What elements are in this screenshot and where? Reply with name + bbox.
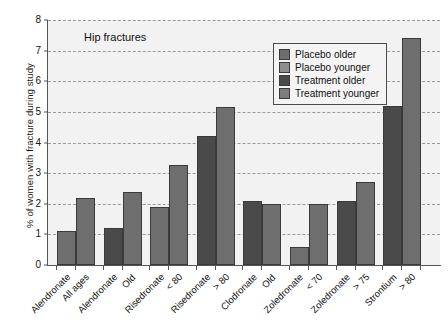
x-tick-mark: [242, 265, 243, 270]
x-label-group: < 80: [164, 272, 184, 292]
bar: [337, 201, 356, 265]
legend: Placebo olderPlacebo youngerTreatment ol…: [273, 43, 387, 105]
plot-area: 012345678 Hip fractures Placebo olderPla…: [47, 20, 440, 265]
bar: [383, 106, 402, 265]
bar: [216, 107, 235, 265]
bar: [262, 204, 281, 265]
x-tick-mark: [215, 265, 216, 270]
legend-item: Placebo older: [279, 48, 379, 61]
y-axis-title: % of women with fracture during study: [24, 21, 35, 271]
legend-item: Treatment younger: [279, 87, 379, 100]
x-label-group: > 75: [351, 272, 371, 292]
hip-fractures-bar-chart: % of women with fracture during study 01…: [0, 0, 448, 334]
legend-label: Placebo younger: [295, 63, 370, 73]
x-tick-mark: [261, 265, 262, 270]
legend-label: Treatment older: [295, 76, 365, 86]
bar: [123, 192, 142, 266]
x-tick-mark: [56, 265, 57, 270]
bar: [356, 182, 375, 265]
x-tick-mark: [355, 265, 356, 270]
x-label-group: > 80: [211, 272, 231, 292]
legend-swatch: [279, 75, 290, 86]
x-tick-mark: [382, 265, 383, 270]
x-tick-mark: [308, 265, 309, 270]
legend-label: Treatment younger: [295, 89, 379, 99]
x-tick-mark: [168, 265, 169, 270]
legend-swatch: [279, 62, 290, 73]
bar: [402, 38, 421, 265]
bar: [197, 136, 216, 265]
bar: [290, 247, 309, 265]
x-label-group: < 70: [304, 272, 324, 292]
legend-item: Treatment older: [279, 74, 379, 87]
bar: [243, 201, 262, 265]
x-tick-mark: [122, 265, 123, 270]
bar: [104, 228, 123, 265]
legend-item: Placebo younger: [279, 61, 379, 74]
x-tick-mark: [75, 265, 76, 270]
bar: [169, 165, 188, 265]
x-tick-mark: [103, 265, 104, 270]
x-tick-mark: [196, 265, 197, 270]
legend-swatch: [279, 88, 290, 99]
x-tick-mark: [289, 265, 290, 270]
legend-swatch: [279, 49, 290, 60]
bar: [309, 204, 328, 265]
x-label-group: Old: [260, 272, 277, 289]
bar: [57, 231, 76, 265]
x-tick-mark: [336, 265, 337, 270]
x-label-group: > 80: [397, 272, 417, 292]
bar: [76, 198, 95, 265]
x-tick-mark: [401, 265, 402, 270]
x-tick-mark: [149, 265, 150, 270]
x-tick-mark: [420, 265, 421, 270]
x-label-group: Old: [120, 272, 137, 289]
chart-annotation: Hip fractures: [84, 31, 146, 43]
bar: [150, 207, 169, 265]
legend-label: Placebo older: [295, 50, 356, 60]
